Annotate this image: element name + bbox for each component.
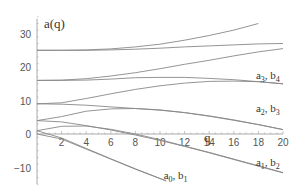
- x-tick-label: 20: [277, 137, 289, 148]
- x-tick-label: 18: [253, 137, 265, 148]
- curve-label: a0, b1: [164, 169, 188, 184]
- series-a4: [37, 49, 283, 81]
- y-tick-label: 30: [20, 29, 32, 40]
- y-tick-label: 10: [20, 96, 32, 107]
- mathieu-characteristic-chart: 24681012141618203020100−10 a0, b1a1, b2a…: [0, 0, 302, 196]
- series-a5: [37, 24, 258, 51]
- series-b4: [37, 77, 283, 83]
- series-a3: [37, 81, 283, 104]
- curve-label: a2, b3: [256, 102, 280, 117]
- y-tick-label: 20: [20, 62, 32, 73]
- axes: 24681012141618203020100−10: [14, 17, 289, 185]
- y-axis-label: a(q): [44, 16, 65, 31]
- x-axis-label: q: [204, 130, 211, 145]
- y-tick-label: −10: [14, 163, 31, 174]
- x-tick-label: 6: [108, 137, 114, 148]
- series-lines: [37, 24, 283, 181]
- x-tick-label: 8: [133, 137, 139, 148]
- series-a0: [37, 134, 166, 181]
- curve-labels: a0, b1a1, b2a2, b3a3, b4: [164, 69, 280, 185]
- x-tick-label: 16: [228, 137, 240, 148]
- y-tick-label: 0: [25, 129, 31, 140]
- x-tick-label: 4: [83, 137, 89, 148]
